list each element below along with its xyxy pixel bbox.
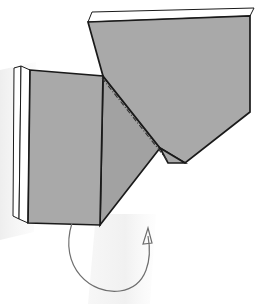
paper-folding-diagram: [0, 0, 264, 304]
figure-canvas: Paper folding step diagram Two quadrilat…: [0, 0, 264, 304]
left-panel: [28, 70, 103, 225]
